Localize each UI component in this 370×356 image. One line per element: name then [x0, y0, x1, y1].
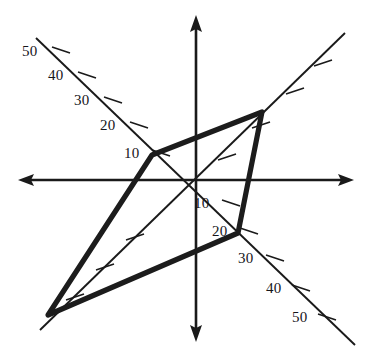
label-lr-30: 30: [238, 251, 253, 266]
tick-ul-20: [130, 122, 148, 128]
tick-ul-50: [52, 47, 70, 53]
tick-ul-40: [78, 72, 96, 78]
tick-sw-3: [126, 234, 144, 240]
label-lr-20: 20: [212, 224, 227, 239]
label-ul-10: 10: [124, 146, 139, 161]
label-ul-50: 50: [22, 44, 37, 59]
quadrilateral: [48, 112, 262, 315]
tick-lr-30: [266, 255, 284, 261]
ascending-diagonal-line: [40, 33, 345, 330]
quadrilateral-outline: [48, 112, 262, 315]
vertical-axis: [190, 15, 202, 342]
geometry-figure: 50 40 30 20 10 10 20 30 40 50: [0, 0, 370, 356]
label-lr-40: 40: [266, 281, 281, 296]
label-ul-20: 20: [100, 118, 115, 133]
tick-ul-30: [104, 97, 122, 103]
label-lr-10: 10: [194, 196, 209, 211]
figure-canvas: [0, 0, 370, 356]
tick-sw-2: [96, 264, 114, 270]
label-ul-40: 40: [48, 68, 63, 83]
ascending-diagonal-axis: [40, 33, 345, 330]
horizontal-axis: [18, 174, 354, 186]
label-ul-30: 30: [74, 93, 89, 108]
tick-lr-20: [240, 228, 258, 234]
tick-lr-10: [222, 200, 240, 206]
label-lr-50: 50: [292, 310, 307, 325]
